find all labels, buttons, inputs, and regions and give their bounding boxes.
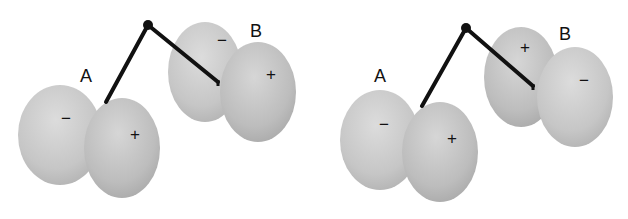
atom-b-front-lobe <box>220 42 296 142</box>
central-atom-dot <box>461 23 471 33</box>
orbital-overlap-diagram: A B − + − + A B − + + − <box>0 0 628 219</box>
central-atom-dot <box>143 20 153 30</box>
atom-a-right-lobe <box>402 102 478 202</box>
atom-b-front-sign: + <box>266 65 276 84</box>
atom-a-label: A <box>80 66 92 86</box>
atom-b-back-sign: − <box>217 31 227 50</box>
atom-b-label: B <box>559 24 571 44</box>
atom-a-left-sign: − <box>61 109 71 128</box>
atom-b-label: B <box>250 21 262 41</box>
atom-b-front-sign: − <box>579 71 589 90</box>
atom-a-right-sign: + <box>130 125 140 144</box>
atom-a-left-sign: − <box>379 115 389 134</box>
atom-b-front-lobe <box>537 47 613 147</box>
atom-a-right-lobe <box>84 98 160 198</box>
atom-a-orbital <box>340 90 478 202</box>
panel-right: A B − + + − <box>340 23 613 202</box>
atom-b-back-sign: + <box>520 38 530 57</box>
atom-a-right-sign: + <box>447 129 457 148</box>
panel-left: A B − + − + <box>18 20 296 198</box>
atom-b-orbital <box>168 22 296 142</box>
atom-a-label: A <box>374 66 386 86</box>
atom-b-orbital <box>484 27 613 147</box>
